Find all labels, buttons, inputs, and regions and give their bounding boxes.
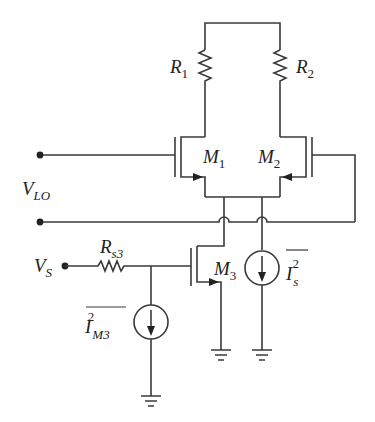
ground-icon — [141, 350, 272, 406]
m3-arrow-icon — [209, 278, 219, 286]
noise-source-is — [245, 250, 279, 350]
vlo-plus-terminal — [37, 152, 44, 159]
label-m2: M2 — [257, 146, 280, 171]
transistor-m2 — [280, 137, 355, 222]
vlo-minus-terminal — [37, 219, 44, 226]
m1-arrow-icon — [193, 173, 203, 181]
top-wire — [205, 23, 280, 50]
vlo-lower-wire — [40, 217, 355, 222]
label-is: Is2 — [285, 256, 299, 289]
label-vlo: VLO — [22, 178, 51, 203]
label-im3: IM32 — [84, 309, 110, 342]
label-r1: R1 — [169, 56, 188, 81]
circuit-diagram: R1 R2 M1 M2 M3 VLO VS Rs3 Is2 IM32 — [0, 0, 375, 422]
resistor-r1 — [199, 50, 211, 137]
noise-source-im3 — [134, 266, 168, 396]
label-rs3: Rs3 — [99, 236, 124, 261]
is-arrow-icon — [258, 272, 266, 282]
label-vs: VS — [34, 255, 53, 280]
label-m1: M1 — [202, 146, 225, 171]
m2-arrow-icon — [282, 173, 292, 181]
schematic-svg: R1 R2 M1 M2 M3 VLO VS Rs3 Is2 IM32 — [0, 0, 375, 422]
transistor-m1 — [40, 137, 205, 197]
resistor-r2 — [274, 50, 286, 137]
resistor-rs3 — [65, 261, 191, 271]
label-r2: R2 — [295, 56, 314, 81]
im3-arrow-icon — [147, 326, 155, 336]
label-m3: M3 — [213, 258, 236, 283]
